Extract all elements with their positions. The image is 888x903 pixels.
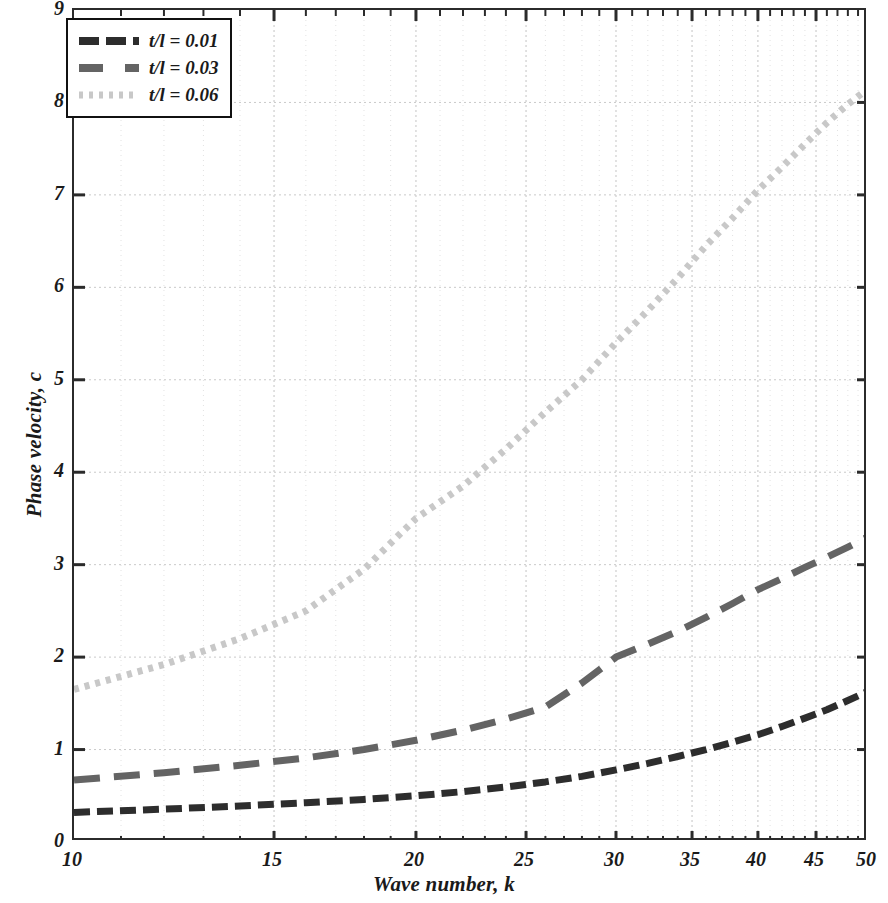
x-tick-label: 40 (726, 848, 786, 871)
legend-item[interactable]: t/l = 0.01 (78, 27, 218, 54)
legend-item-label: t/l = 0.03 (149, 58, 218, 77)
x-tick-label: 35 (660, 848, 720, 871)
legend-item-label: t/l = 0.01 (149, 31, 218, 50)
x-tick-label: 30 (584, 848, 644, 871)
legend-item-label: t/l = 0.06 (149, 85, 218, 104)
x-tick-label: 50 (836, 848, 888, 871)
legend-item[interactable]: t/l = 0.03 (78, 54, 218, 81)
x-tick-label: 20 (384, 848, 444, 871)
x-tick-label: 25 (494, 848, 554, 871)
data-series-layer (74, 10, 866, 840)
legend-line-sample (78, 88, 140, 102)
legend-line-sample (78, 61, 140, 75)
x-tick-label: 15 (242, 848, 302, 871)
plot-area (72, 8, 866, 840)
x-tick-label: 10 (42, 848, 102, 871)
figure-canvas: Phase velocity, c Wave number, k 0123456… (0, 0, 888, 903)
legend-line-sample (78, 34, 140, 48)
legend-item[interactable]: t/l = 0.06 (78, 81, 218, 108)
legend-box[interactable]: t/l = 0.01 t/l = 0.03 t/l = 0.06 (66, 18, 232, 118)
